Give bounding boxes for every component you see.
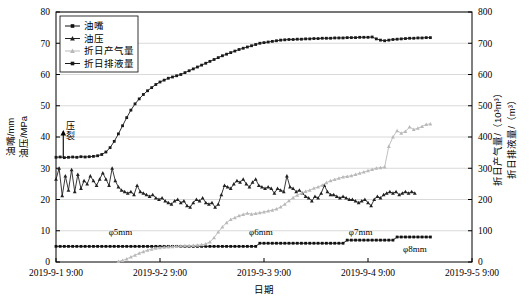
data-point (297, 188, 301, 192)
data-point (105, 245, 108, 248)
data-point (135, 183, 139, 187)
data-point (55, 245, 58, 248)
data-point (113, 245, 116, 248)
data-point (235, 179, 239, 183)
data-point (104, 177, 108, 181)
data-point (225, 245, 228, 248)
data-point (217, 245, 220, 248)
data-point (229, 245, 232, 248)
data-point (283, 38, 286, 41)
data-point (304, 242, 307, 245)
data-point (412, 236, 415, 239)
data-point (417, 37, 420, 40)
data-point (117, 245, 120, 248)
data-point (167, 77, 170, 80)
data-point (117, 185, 121, 189)
data-point (326, 190, 330, 194)
data-point (84, 156, 87, 159)
data-point (275, 242, 278, 245)
data-point (342, 242, 345, 245)
data-point (421, 236, 424, 239)
data-point (254, 43, 257, 46)
data-point (329, 242, 332, 245)
y-axis-right-tick-label: 0 (478, 257, 483, 267)
data-point (175, 74, 178, 77)
data-point (263, 41, 266, 44)
fracturing-annotation-label-2: 裂 (66, 131, 75, 141)
data-point (325, 242, 328, 245)
data-point (375, 239, 378, 242)
data-point (221, 54, 224, 57)
nozzle-size-label: φ6mm (249, 227, 273, 237)
data-point (354, 36, 357, 39)
data-point (134, 245, 137, 248)
y-axis-left-tick-label: 70 (41, 39, 51, 49)
data-point (258, 242, 261, 245)
data-point (296, 242, 299, 245)
data-point (184, 71, 187, 74)
data-point (271, 40, 274, 43)
data-point (358, 239, 361, 242)
data-point (395, 129, 399, 133)
chart-svg: 0102030405060708001002003004005006007008… (0, 0, 529, 303)
data-point (300, 242, 303, 245)
data-point (82, 179, 86, 183)
data-point (113, 179, 117, 183)
data-point (59, 156, 62, 159)
data-point (404, 37, 407, 40)
y-axis-right-tick-label: 100 (478, 226, 493, 236)
data-point (67, 188, 71, 192)
data-point (109, 245, 112, 248)
y-axis-right-title: 折日排液量/（m³） (506, 95, 517, 179)
data-point (100, 245, 103, 248)
data-point (300, 38, 303, 41)
data-point (121, 124, 124, 127)
x-axis-tick-label: 2019-9-4 9:00 (341, 268, 395, 278)
data-point (337, 37, 340, 40)
data-point (129, 190, 133, 194)
data-point (217, 56, 220, 59)
data-point (342, 37, 345, 40)
x-axis-tick-label: 2019-9-5 9:00 (445, 268, 499, 278)
data-point (67, 245, 70, 248)
data-point (396, 236, 399, 239)
data-point (163, 79, 166, 82)
data-point (201, 196, 205, 200)
data-point (60, 194, 64, 198)
data-point (142, 93, 145, 96)
data-point (125, 116, 128, 119)
data-point (288, 242, 291, 245)
data-point (367, 239, 370, 242)
data-point (71, 156, 74, 159)
data-point (333, 37, 336, 40)
data-point (408, 236, 411, 239)
data-point (362, 239, 365, 242)
data-point (421, 37, 424, 40)
y-axis-left-tick-label: 0 (45, 257, 50, 267)
data-point (241, 177, 245, 181)
data-point (75, 156, 78, 159)
data-point (101, 171, 105, 175)
data-point (257, 183, 261, 187)
data-point (142, 245, 145, 248)
data-point (233, 245, 236, 248)
data-point (313, 37, 316, 40)
data-point (229, 51, 232, 54)
data-point (134, 102, 137, 105)
data-point (271, 242, 274, 245)
y-axis-left-title: 油压/MPa (18, 115, 29, 158)
data-point (75, 245, 78, 248)
data-point (358, 36, 361, 39)
data-point (100, 153, 103, 156)
legend-label-油压: 油压 (84, 33, 104, 44)
data-point (88, 245, 91, 248)
y-axis-left-tick-label: 50 (41, 101, 51, 111)
data-point (250, 245, 253, 248)
data-point (79, 187, 83, 191)
data-point (429, 236, 432, 239)
data-point (313, 194, 317, 198)
data-point (213, 58, 216, 61)
data-point (375, 37, 378, 40)
data-point (308, 242, 311, 245)
data-point (319, 191, 323, 195)
